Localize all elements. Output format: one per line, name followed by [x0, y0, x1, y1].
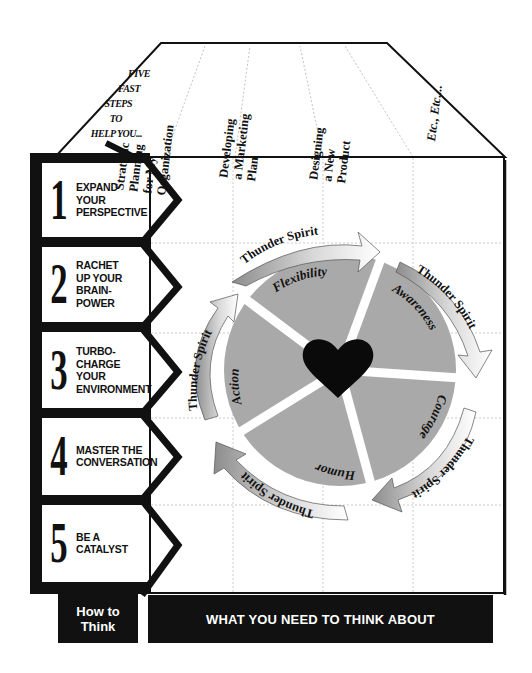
- step-number: 4: [50, 427, 68, 485]
- intro-line: FAST: [84, 81, 140, 96]
- step-label: RACHET UP YOUR BRAIN- POWER: [76, 259, 122, 309]
- step-number: 5: [50, 514, 68, 572]
- step-label: BE A CATALYST: [76, 531, 128, 556]
- how-to-think-label: How to Think: [58, 594, 138, 643]
- step-5: 5 BE A CATALYST: [42, 507, 162, 579]
- step-number: 2: [50, 255, 68, 313]
- step-number: 3: [50, 341, 68, 399]
- column-header-new-product: Designing a New Product: [306, 126, 354, 184]
- step-label: MASTER THE CONVERSATION: [76, 444, 157, 469]
- what-you-need-label: WHAT YOU NEED TO THINK ABOUT: [148, 595, 493, 643]
- step-3: 3 TURBO- CHARGE YOUR ENVIRONMENT: [42, 334, 162, 406]
- step-number: 1: [50, 171, 68, 229]
- intro-line: FIVE: [84, 66, 150, 81]
- column-header-marketing-plan: Developing a Marketing Plan: [216, 111, 266, 182]
- step-1: 1 EXPAND YOUR PERSPECTIVE: [42, 164, 162, 236]
- intro-line: TO: [84, 111, 122, 126]
- intro-line: STEPS: [84, 96, 132, 111]
- step-label: EXPAND YOUR PERSPECTIVE: [76, 181, 147, 219]
- step-label: TURBO- CHARGE YOUR ENVIRONMENT: [76, 345, 151, 395]
- step-2: 2 RACHET UP YOUR BRAIN- POWER: [42, 248, 162, 320]
- step-4: 4 MASTER THE CONVERSATION: [42, 420, 162, 492]
